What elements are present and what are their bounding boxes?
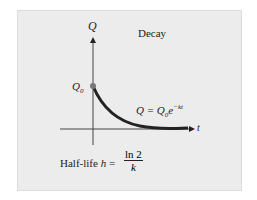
initial-value-point <box>90 83 96 89</box>
half-life-fraction: ln 2 k <box>124 148 143 173</box>
half-life-formula: Half-life h = <box>60 157 115 169</box>
initial-value-label: Q0 <box>72 80 83 95</box>
decay-equation: Q = Q0e−kt <box>136 103 183 119</box>
x-axis-label: t <box>197 122 200 133</box>
y-axis-label: Q <box>88 19 97 34</box>
figure-title: Decay <box>138 27 166 39</box>
